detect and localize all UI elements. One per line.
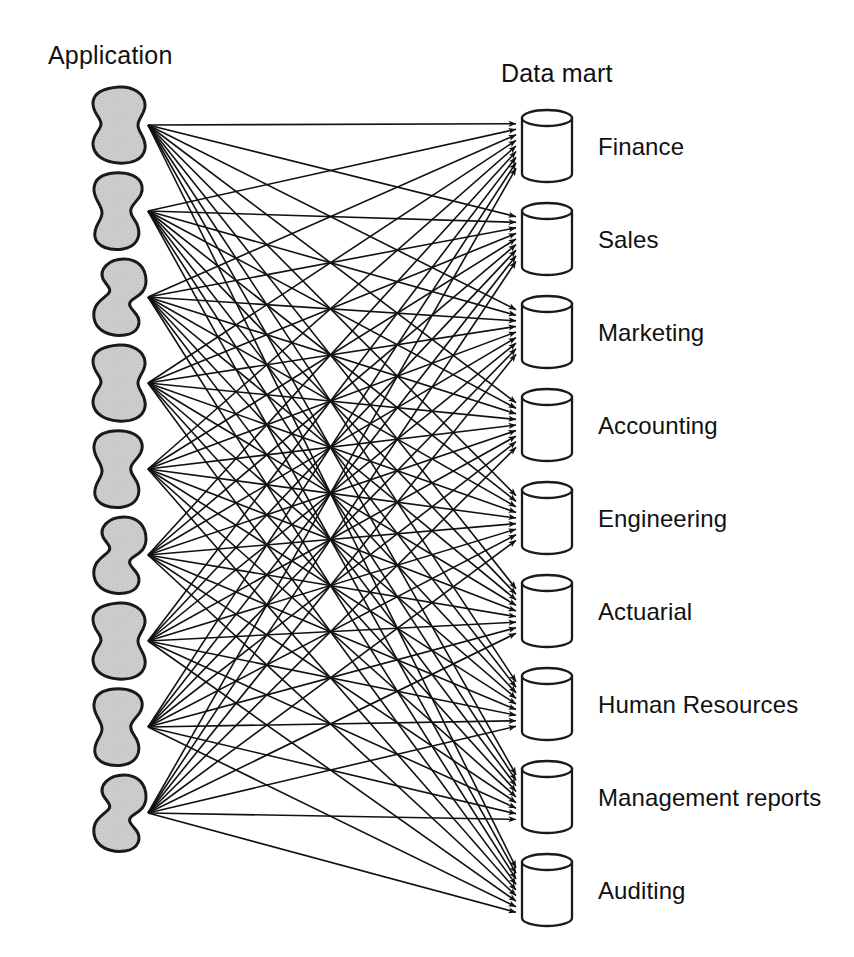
data-mart-actuarial[interactable] [522, 575, 572, 647]
cylinder-top-icon [522, 296, 572, 312]
connection-arrow [148, 354, 516, 813]
data-mart-finance[interactable] [522, 110, 572, 182]
application-blob-1[interactable] [93, 87, 145, 163]
application-icon [94, 259, 146, 335]
application-blob-9[interactable] [94, 775, 146, 851]
application-blob-6[interactable] [94, 517, 146, 593]
data-mart-labels-group: FinanceSalesMarketingAccountingEngineeri… [598, 133, 821, 904]
cylinder-top-icon [522, 482, 572, 498]
application-icon [94, 173, 142, 250]
connection-arrow [148, 633, 516, 813]
cylinder-body [522, 118, 572, 182]
application-blob-4[interactable] [93, 345, 145, 421]
application-blobs-group [93, 87, 146, 851]
cylinder-body [522, 583, 572, 647]
application-icon [93, 603, 145, 679]
cylinder-body [522, 397, 572, 461]
data-mart-heading: Data mart [501, 59, 613, 87]
cylinder-top-icon [522, 203, 572, 219]
application-heading: Application [48, 41, 173, 69]
data-mart-label: Actuarial [598, 598, 692, 625]
architecture-diagram: Application Data mart FinanceSalesMarket… [0, 0, 854, 957]
connection-arrow [148, 813, 516, 819]
data-mart-label: Finance [598, 133, 684, 160]
connection-arrow [148, 124, 516, 125]
application-icon [93, 345, 145, 421]
connection-arrow [148, 129, 516, 211]
cylinder-body [522, 769, 572, 833]
cylinder-top-icon [522, 389, 572, 405]
connection-arrow [148, 140, 516, 383]
data-mart-cylinders-group [522, 110, 572, 926]
cylinder-body [522, 490, 572, 554]
application-icon [93, 87, 145, 163]
cylinder-top-icon [522, 110, 572, 126]
data-mart-label: Human Resources [598, 691, 798, 718]
cylinder-top-icon [522, 854, 572, 870]
cylinder-body [522, 304, 572, 368]
data-mart-management-reports[interactable] [522, 761, 572, 833]
cylinder-body [522, 676, 572, 740]
data-mart-label: Marketing [598, 319, 704, 346]
connection-arrow [148, 447, 516, 813]
data-mart-label: Engineering [598, 505, 727, 532]
data-mart-auditing[interactable] [522, 854, 572, 926]
application-blob-7[interactable] [93, 603, 145, 679]
cylinder-top-icon [522, 761, 572, 777]
data-mart-accounting[interactable] [522, 389, 572, 461]
connection-arrow [148, 157, 516, 641]
data-mart-label: Accounting [598, 412, 718, 439]
data-mart-label: Management reports [598, 784, 821, 811]
application-icon [94, 775, 146, 851]
data-mart-label: Auditing [598, 877, 686, 904]
data-mart-human-resources[interactable] [522, 668, 572, 740]
cylinder-body [522, 211, 572, 275]
cylinder-body [522, 862, 572, 926]
data-mart-label: Sales [598, 226, 659, 253]
application-blob-8[interactable] [94, 689, 142, 766]
diagram-canvas: Application Data mart FinanceSalesMarket… [0, 0, 854, 957]
cylinder-top-icon [522, 668, 572, 684]
application-icon [94, 689, 142, 766]
data-mart-sales[interactable] [522, 203, 572, 275]
application-blob-2[interactable] [94, 173, 142, 250]
application-icon [94, 517, 146, 593]
application-blob-5[interactable] [94, 431, 142, 508]
connection-mesh [148, 124, 516, 913]
application-icon [94, 431, 142, 508]
data-mart-marketing[interactable] [522, 296, 572, 368]
cylinder-top-icon [522, 575, 572, 591]
data-mart-engineering[interactable] [522, 482, 572, 554]
application-blob-3[interactable] [94, 259, 146, 335]
